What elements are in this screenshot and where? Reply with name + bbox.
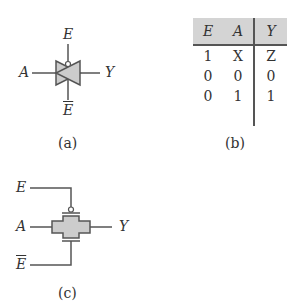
table-row: 0 0 0 (193, 66, 287, 86)
label-e-top: E (63, 26, 73, 42)
table-row: 0 1 1 (193, 86, 287, 106)
label-e-bar-c: E (16, 256, 26, 272)
caption-a: (a) (58, 135, 77, 151)
label-a: A (19, 64, 29, 80)
caption-c: (c) (58, 285, 77, 301)
header-a: A (223, 18, 254, 45)
caption-b: (b) (225, 135, 245, 151)
header-y: Y (254, 18, 287, 45)
truth-table: E A Y 1 X Z 0 0 0 0 1 1 (193, 18, 287, 126)
label-y: Y (105, 64, 114, 80)
label-y-c: Y (119, 218, 128, 234)
table-row: 1 X Z (193, 45, 287, 66)
label-e-bar: E (63, 102, 73, 118)
header-e: E (193, 18, 223, 45)
label-e-top-c: E (16, 179, 26, 195)
label-a-c: A (16, 218, 26, 234)
